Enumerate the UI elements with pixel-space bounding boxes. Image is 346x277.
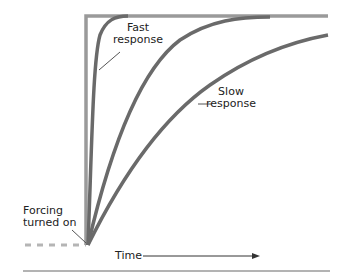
slow-response-label: Slow response: [200, 86, 262, 110]
forcing-turned-on-label: Forcing turned on: [23, 205, 77, 229]
medium-response-curve: [88, 17, 270, 245]
climate-response-diagram: Fast response Slow response Forcing turn…: [0, 0, 346, 277]
diagram-graphics: [0, 0, 346, 277]
slow-response-curve: [88, 35, 328, 245]
fast-leader-line: [99, 52, 120, 70]
time-arrow-head: [252, 253, 260, 259]
forcing-leader-line: [72, 230, 86, 243]
fast-response-label: Fast response: [110, 22, 166, 46]
time-axis-label: Time: [115, 250, 142, 262]
